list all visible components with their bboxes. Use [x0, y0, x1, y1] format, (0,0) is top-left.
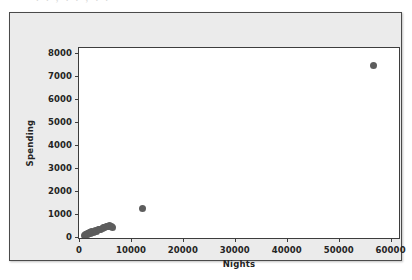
x-tick-label: 0: [76, 245, 82, 255]
data-point: [139, 205, 146, 212]
y-tick-label: 2000: [48, 186, 72, 196]
data-point: [370, 62, 377, 69]
x-axis-title: Nights: [78, 259, 400, 269]
x-tick-mark: [235, 238, 236, 242]
x-tick-label: 60000: [376, 245, 406, 255]
x-tick-mark: [183, 238, 184, 242]
scatter-plot-figure: . . , . . , . . Spending Nights 01000200…: [0, 0, 412, 280]
y-tick-label: 4000: [48, 140, 72, 150]
y-tick-label: 3000: [48, 163, 72, 173]
x-tick-mark: [287, 238, 288, 242]
clipped-caption-artifact: . . , . . , . .: [0, 0, 412, 9]
y-tick-label: 5000: [48, 117, 72, 127]
x-tick-label: 50000: [324, 245, 354, 255]
y-tick-label: 1000: [48, 209, 72, 219]
x-tick-label: 20000: [168, 245, 198, 255]
x-tick-label: 30000: [220, 245, 250, 255]
x-tick-label: 10000: [116, 245, 146, 255]
x-tick-label: 40000: [272, 245, 302, 255]
y-tick-label: 7000: [48, 71, 72, 81]
x-tick-mark: [391, 238, 392, 242]
x-tick-mark: [339, 238, 340, 242]
plot-area: 010002000300040005000600070008000 010000…: [78, 47, 400, 239]
y-tick-label: 0: [66, 232, 72, 242]
data-points-layer: [79, 48, 399, 238]
y-axis-title: Spending: [25, 120, 35, 167]
clipped-caption-text: . . , . . , . .: [36, 0, 110, 3]
y-tick-label: 8000: [48, 48, 72, 58]
figure-panel: Spending Nights 010002000300040005000600…: [9, 12, 402, 261]
x-tick-mark: [79, 238, 80, 242]
data-point: [109, 224, 116, 231]
x-tick-mark: [131, 238, 132, 242]
y-tick-label: 6000: [48, 94, 72, 104]
